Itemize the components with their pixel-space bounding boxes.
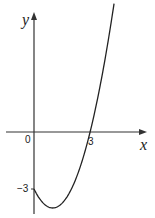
x-tick-label: 3 [88,137,94,147]
x-axis-label: x [140,137,147,153]
y-axis-arrow-icon [31,12,37,20]
y-tick-label: −3 [17,184,28,194]
x-axis-arrow-icon [139,129,147,135]
function-curve [34,4,114,208]
origin-label: 0 [25,135,31,145]
y-axis-label: y [22,12,29,28]
